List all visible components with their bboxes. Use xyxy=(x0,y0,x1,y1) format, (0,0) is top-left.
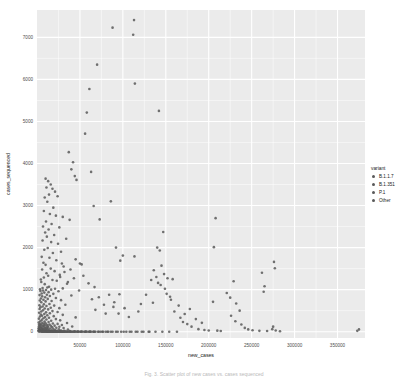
data-point xyxy=(98,218,101,221)
plot-panel-background xyxy=(37,10,365,338)
data-point xyxy=(62,327,65,330)
data-point xyxy=(219,330,222,333)
legend-label[interactable]: Other xyxy=(379,198,391,203)
data-point xyxy=(88,88,91,91)
data-point xyxy=(98,296,101,299)
data-point xyxy=(71,325,74,328)
data-point xyxy=(70,168,73,171)
data-point xyxy=(155,276,158,279)
data-point xyxy=(55,214,58,217)
data-point xyxy=(186,323,189,326)
legend-label[interactable]: B.1.351 xyxy=(379,182,395,187)
data-point xyxy=(137,310,140,313)
data-point xyxy=(84,132,87,135)
data-point xyxy=(61,216,64,219)
legend-marker[interactable] xyxy=(372,183,375,186)
data-point xyxy=(161,330,164,333)
data-point xyxy=(40,292,43,295)
data-point xyxy=(104,312,107,315)
y-tick-label: 4000 xyxy=(23,161,34,166)
legend-title: variant xyxy=(371,166,386,171)
data-point xyxy=(145,293,148,296)
data-point xyxy=(44,300,47,303)
x-tick-label: 200000 xyxy=(201,343,217,348)
data-point xyxy=(203,329,206,332)
data-point xyxy=(48,317,51,320)
data-point xyxy=(116,330,119,333)
data-point xyxy=(67,151,70,154)
data-point xyxy=(45,305,48,308)
data-point xyxy=(134,330,137,333)
y-tick-label: 3000 xyxy=(23,203,34,208)
data-point xyxy=(195,318,198,321)
data-point xyxy=(58,226,61,229)
data-point xyxy=(48,193,51,196)
data-point xyxy=(118,293,121,296)
data-point xyxy=(55,280,58,283)
data-point xyxy=(112,306,115,309)
data-point xyxy=(61,314,64,317)
data-point xyxy=(42,261,45,264)
y-tick-label: 6000 xyxy=(23,77,34,82)
data-point xyxy=(53,304,56,307)
data-point xyxy=(207,329,210,332)
data-point xyxy=(48,303,51,306)
data-point xyxy=(122,254,125,257)
data-point xyxy=(120,330,123,333)
data-point xyxy=(98,330,101,333)
data-point xyxy=(41,239,44,242)
data-point xyxy=(156,246,159,249)
data-point xyxy=(274,267,277,270)
data-point xyxy=(92,205,95,208)
legend-label[interactable]: B.1.1.7 xyxy=(379,174,394,179)
data-point xyxy=(40,281,43,284)
data-point xyxy=(60,299,63,302)
data-point xyxy=(189,308,192,311)
data-point xyxy=(107,330,110,333)
x-tick-label: 250000 xyxy=(244,343,260,348)
data-point xyxy=(56,311,59,314)
data-point xyxy=(67,330,70,333)
scatter-chart: 5000010000015000020000025000030000035000… xyxy=(0,0,409,377)
data-point xyxy=(67,281,70,284)
data-point xyxy=(55,318,58,321)
data-point xyxy=(113,301,116,304)
legend-marker[interactable] xyxy=(372,199,375,202)
data-point xyxy=(47,180,50,183)
data-point xyxy=(52,315,55,318)
legend-marker[interactable] xyxy=(372,175,375,178)
data-point xyxy=(41,268,44,271)
data-point xyxy=(40,256,43,259)
data-point xyxy=(176,330,179,333)
data-point xyxy=(62,330,65,333)
data-point xyxy=(132,34,135,37)
data-point xyxy=(52,206,55,209)
data-point xyxy=(44,264,47,267)
data-point xyxy=(152,301,155,304)
data-point xyxy=(96,63,99,66)
legend-marker[interactable] xyxy=(372,191,375,194)
legend-label[interactable]: P.1 xyxy=(379,190,386,195)
data-point xyxy=(168,330,171,333)
data-point xyxy=(157,282,160,285)
data-point xyxy=(243,327,246,330)
data-point xyxy=(50,223,53,226)
data-point xyxy=(247,328,250,331)
data-point xyxy=(43,291,46,294)
data-point xyxy=(43,276,46,279)
data-point xyxy=(61,324,64,327)
data-point xyxy=(47,228,50,231)
data-point xyxy=(69,268,72,271)
data-point xyxy=(165,293,168,296)
data-point xyxy=(43,196,46,199)
data-point xyxy=(147,330,150,333)
data-point xyxy=(214,217,217,220)
data-point xyxy=(49,312,52,315)
data-point xyxy=(61,287,64,290)
data-point xyxy=(47,274,50,277)
data-point xyxy=(73,277,76,280)
data-point xyxy=(75,330,78,333)
y-axis-title: cases_sequenced xyxy=(5,153,11,195)
data-point xyxy=(45,186,48,189)
y-tick-label: 0 xyxy=(30,329,33,334)
